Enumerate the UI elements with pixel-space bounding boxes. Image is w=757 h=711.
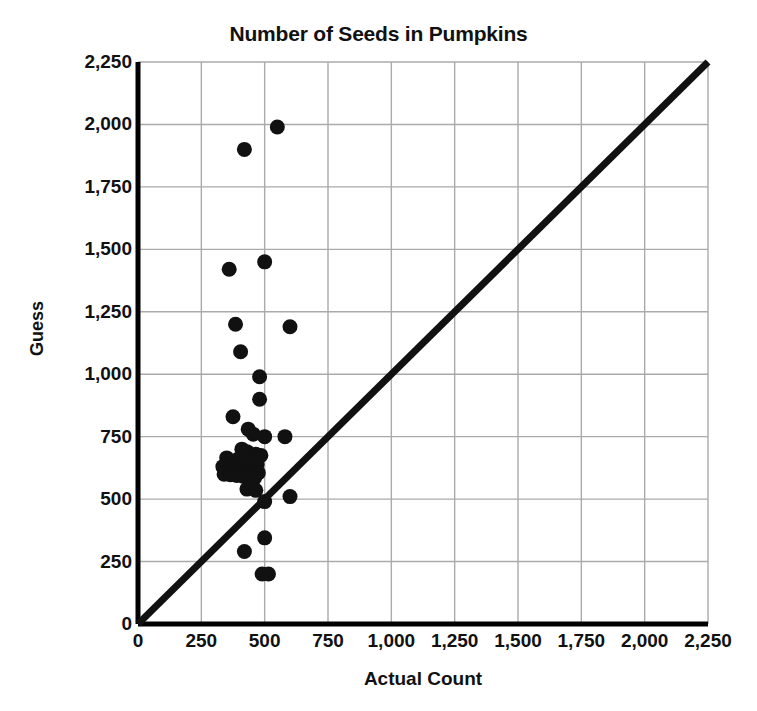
scatter-point	[261, 567, 276, 582]
scatter-point	[237, 544, 252, 559]
scatter-point	[233, 344, 248, 359]
reference-line	[138, 62, 708, 624]
plot-area	[0, 0, 757, 711]
scatter-point	[283, 489, 298, 504]
scatter-point	[222, 262, 237, 277]
scatter-point	[252, 369, 267, 384]
data-points	[215, 119, 297, 581]
scatter-point	[226, 409, 241, 424]
identity-reference-line	[138, 62, 708, 624]
scatter-point	[257, 530, 272, 545]
scatter-point	[252, 392, 267, 407]
scatter-chart-figure: Number of Seeds in Pumpkins 02505007501,…	[0, 0, 757, 711]
scatter-point	[228, 317, 243, 332]
scatter-point	[257, 429, 272, 444]
scatter-point	[257, 254, 272, 269]
scatter-point	[237, 142, 252, 157]
scatter-point	[283, 319, 298, 334]
scatter-point	[277, 429, 292, 444]
scatter-point	[257, 494, 272, 509]
scatter-point	[270, 119, 285, 134]
